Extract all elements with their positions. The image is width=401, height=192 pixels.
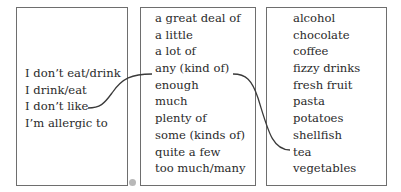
list-item: some (kinds of): [155, 127, 246, 144]
list-item: tea: [293, 144, 360, 161]
list-item: potatoes: [293, 110, 360, 127]
list-item: quite a few: [155, 144, 246, 161]
list-item: chocolate: [293, 27, 360, 44]
list-item: I don’t like: [25, 98, 121, 115]
subject-phrase-list: I don’t eat/drink I drink/eat I don’t li…: [25, 65, 121, 132]
list-item: much: [155, 93, 246, 110]
list-item: fresh fruit: [293, 77, 360, 94]
list-item: enough: [155, 77, 246, 94]
quantifier-list: a great deal of a little a lot of any (k…: [155, 10, 246, 177]
decorative-dot: [129, 179, 136, 186]
list-item: I drink/eat: [25, 82, 121, 99]
list-item: I don’t eat/drink: [25, 65, 121, 82]
list-item: a little: [155, 27, 246, 44]
list-item: I’m allergic to: [25, 115, 121, 132]
list-item: shellfish: [293, 127, 360, 144]
list-item: plenty of: [155, 110, 246, 127]
list-item: alcohol: [293, 10, 360, 27]
food-drink-list: alcohol chocolate coffee fizzy drinks fr…: [293, 10, 360, 177]
list-item: a lot of: [155, 43, 246, 60]
list-item: coffee: [293, 43, 360, 60]
list-item: a great deal of: [155, 10, 246, 27]
list-item: pasta: [293, 93, 360, 110]
list-item: too much/many: [155, 160, 246, 177]
list-item: fizzy drinks: [293, 60, 360, 77]
list-item: any (kind of): [155, 60, 246, 77]
list-item: vegetables: [293, 160, 360, 177]
